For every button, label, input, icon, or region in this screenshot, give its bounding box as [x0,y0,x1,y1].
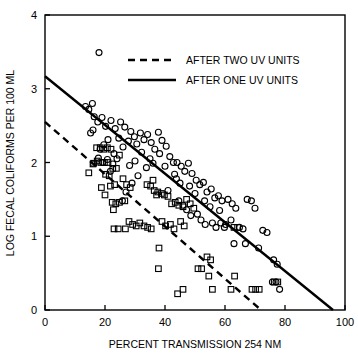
data-point-circle [202,221,208,227]
fit-line-solid [45,76,333,310]
data-point-square [94,145,100,151]
data-point-circle [132,158,138,164]
y-tick-labels: 01234 [31,9,37,316]
data-point-square [228,287,234,293]
data-point-square [99,185,105,191]
data-point-square [111,207,117,213]
data-point-square [123,226,129,232]
data-point-circle [96,50,102,56]
chart-legend: AFTER TWO UV UNITSAFTER ONE UV UNITS [128,54,300,86]
y-tick-label: 2 [31,157,37,169]
data-point-circle [213,224,219,230]
y-axis-title: LOG FECAL COLIFORMS PER 100 ML [4,70,16,256]
data-point-square [109,200,115,206]
data-point-square [148,226,154,232]
data-point-circle [204,189,210,195]
data-point-square [112,182,118,188]
data-point-square [144,182,150,188]
data-point-square [156,245,162,251]
data-point-circle [233,205,239,211]
data-point-circle [219,198,225,204]
x-tick-label: 40 [159,316,171,328]
data-point-square [195,266,201,272]
y-tick-label: 1 [31,230,37,242]
data-point-square [111,226,117,232]
fit-line-dashed [45,122,261,310]
data-point-circle [152,146,158,152]
data-point-circle [122,124,128,130]
x-tick-labels: 020406080100 [42,316,354,328]
data-point-circle [118,119,124,125]
data-point-circle [228,217,234,223]
data-point-circle [167,154,173,160]
legend-label: AFTER ONE UV UNITS [186,74,298,86]
x-tick-label: 100 [336,316,354,328]
data-point-circle [134,141,140,147]
y-tick-label: 3 [31,83,37,95]
data-point-circle [143,165,149,171]
data-point-circle [105,137,111,143]
legend-label: AFTER TWO UV UNITS [186,54,300,66]
data-point-circle [135,173,141,179]
data-point-square [249,287,255,293]
x-tick-label: 0 [42,316,48,328]
data-point-circle [231,241,237,247]
data-point-square [150,177,156,183]
data-point-circle [155,129,161,135]
data-point-circle [97,146,103,152]
x-tick-label: 80 [279,316,291,328]
data-point-circle [187,183,193,189]
data-point-circle [162,163,168,169]
data-point-square [169,201,175,207]
data-point-circle [277,286,283,292]
data-point-circle [217,207,223,213]
data-point-square [199,266,205,272]
data-point-circle [182,168,188,174]
data-point-circle [185,160,191,166]
data-point-square [156,266,162,272]
regression-fit-lines [45,76,333,310]
data-point-square [145,225,151,231]
data-point-square [113,201,119,207]
data-point-square [210,287,216,293]
data-point-circle [252,205,258,211]
data-point-square [180,287,186,293]
data-point-circle [208,186,214,192]
data-point-circle [145,131,151,137]
data-point-circle [163,143,169,149]
data-point-square [253,287,259,293]
x-axis-title: PERCENT TRANSMISSION 254 NM [109,338,281,350]
data-point-square [108,183,114,189]
chart-figure: 020406080100 01234 AFTER TWO UV UNITSAFT… [0,0,358,356]
data-point-circle [120,144,126,150]
data-point-circle [108,117,114,123]
data-point-circle [194,211,200,217]
data-point-square [165,194,171,200]
data-point-circle [189,171,195,177]
data-point-square [102,192,108,198]
x-tick-label: 20 [99,316,111,328]
data-point-circle [137,130,143,136]
data-point-circle [188,213,194,219]
y-tick-label: 4 [31,9,37,21]
data-point-square [86,170,92,176]
data-point-circle [157,151,163,157]
data-point-circle [127,162,133,168]
data-point-square [256,287,262,293]
data-point-square [120,176,126,182]
data-point-square [206,273,212,279]
data-point-square [232,273,238,279]
data-point-circle [131,134,137,140]
data-point-square [175,291,181,297]
data-point-circle [148,140,154,146]
y-tick-label: 0 [31,304,37,316]
x-tick-label: 60 [219,316,231,328]
scatter-plot: 020406080100 01234 AFTER TWO UV UNITSAFT… [0,0,358,356]
data-point-circle [159,137,165,143]
data-point-circle [89,101,95,107]
data-point-circle [273,279,279,285]
data-point-square [115,226,121,232]
